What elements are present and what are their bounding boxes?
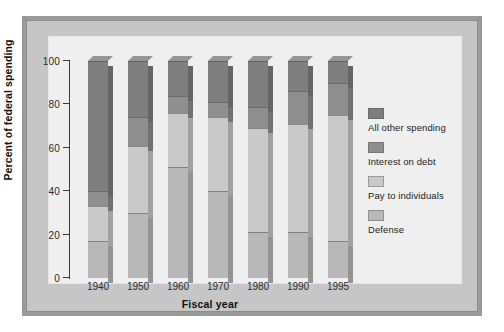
bar-segment [328, 241, 348, 278]
x-axis-tick-label: 1950 [127, 281, 149, 292]
bar-segment-side [308, 237, 313, 283]
x-axis-tick-label: 1970 [207, 281, 229, 292]
bar-top-face-inner [328, 56, 353, 61]
bar-side-face [108, 61, 113, 278]
legend-swatch [368, 108, 384, 119]
bar-segment-side [228, 122, 233, 196]
legend-label: All other spending [368, 122, 472, 133]
bar-stack [288, 61, 308, 278]
bar-stack [88, 61, 108, 278]
bar-segment [328, 115, 348, 241]
y-axis-tick-label: 0 [54, 273, 60, 284]
legend-item[interactable]: All other spending [368, 108, 472, 133]
bar-top-face [128, 56, 153, 61]
x-axis-tick-label: 1980 [247, 281, 269, 292]
bar-side-face [148, 61, 153, 278]
bar-top-face [248, 56, 273, 61]
bar-group [128, 61, 154, 278]
legend-item[interactable]: Defense [368, 210, 472, 235]
bar-segment [328, 61, 348, 83]
bar-top-face [328, 56, 353, 61]
bar-segment-side [188, 172, 193, 283]
chart-figure: 100806040200 Percent of federal spending… [0, 0, 504, 332]
bar-segment-side [228, 66, 233, 107]
bar-group [88, 61, 114, 278]
bar-top-face [288, 56, 313, 61]
bar-segment [168, 167, 188, 278]
bar-segment-side [228, 107, 233, 122]
y-axis-tick-label: 40 [48, 186, 60, 197]
bar-segment-side [308, 66, 313, 96]
bar-segment [208, 191, 228, 278]
bar-segment-side [268, 237, 273, 283]
legend-swatch [368, 210, 384, 221]
bar-segment-side [188, 66, 193, 101]
bar-segment-side [348, 246, 353, 283]
y-axis-tick-mark [63, 190, 70, 191]
bar-stack [128, 61, 148, 278]
bar-segment [88, 191, 108, 206]
bar-segment [168, 113, 188, 167]
bar-top-face [208, 56, 233, 61]
bar-segment [288, 61, 308, 91]
bar-segment [248, 232, 268, 278]
x-axis-tick-label: 1995 [327, 281, 349, 292]
bar-segment [88, 206, 108, 241]
bar-side-face [228, 61, 233, 278]
bar-top-face-inner [208, 56, 233, 61]
chart-legend: All other spendingInterest on debtPay to… [368, 108, 472, 244]
bar-group [168, 61, 194, 278]
bar-segment-side [348, 120, 353, 246]
y-axis-tick-mark [63, 147, 70, 148]
bar-segment-side [268, 133, 273, 237]
legend-swatch [368, 176, 384, 187]
bar-segment-side [348, 88, 353, 121]
bar-segment-side [108, 211, 113, 246]
bar-top-face [168, 56, 193, 61]
x-axis-title: Fiscal year [70, 298, 350, 310]
legend-label: Interest on debt [368, 156, 472, 167]
bar-stack [208, 61, 228, 278]
bar-segment [248, 107, 268, 129]
bar-segment-side [188, 101, 193, 118]
bar-segment-side [148, 66, 153, 122]
y-axis-tick-label: 80 [48, 99, 60, 110]
bar-segment-side [188, 118, 193, 172]
bar-stack [328, 61, 348, 278]
bar-segment-side [348, 66, 353, 88]
x-axis-tick-label: 1960 [167, 281, 189, 292]
bar-segment [128, 146, 148, 213]
bar-segment-side [308, 129, 313, 238]
y-axis-tick-label: 60 [48, 142, 60, 153]
legend-item[interactable]: Pay to individuals [368, 176, 472, 201]
legend-swatch [368, 142, 384, 153]
bar-segment [208, 61, 228, 102]
legend-label: Pay to individuals [368, 190, 472, 201]
bar-segment [128, 61, 148, 117]
x-axis-tick-label: 1990 [287, 281, 309, 292]
bar-segment [208, 102, 228, 117]
bar-segment-side [268, 66, 273, 112]
legend-item[interactable]: Interest on debt [368, 142, 472, 167]
bar-segment-side [108, 196, 113, 211]
bar-segment [248, 61, 268, 107]
bar-group [288, 61, 314, 278]
bar-side-face [308, 61, 313, 278]
bar-top-face-inner [168, 56, 193, 61]
bar-segment [208, 117, 228, 191]
bar-segment [248, 128, 268, 232]
bar-segment-side [268, 112, 273, 134]
bar-segment [168, 96, 188, 113]
bar-group [208, 61, 234, 278]
bar-stack [248, 61, 268, 278]
bar-stack [168, 61, 188, 278]
bar-segment-side [228, 196, 233, 283]
y-axis-tick-label: 100 [43, 56, 60, 67]
bar-side-face [268, 61, 273, 278]
bar-segment-side [148, 218, 153, 283]
bar-segment-side [108, 246, 113, 283]
bar-group [328, 61, 354, 278]
y-axis-title: Percent of federal spending [2, 0, 14, 230]
bar-segment-side [148, 151, 153, 218]
bar-segment [88, 241, 108, 278]
